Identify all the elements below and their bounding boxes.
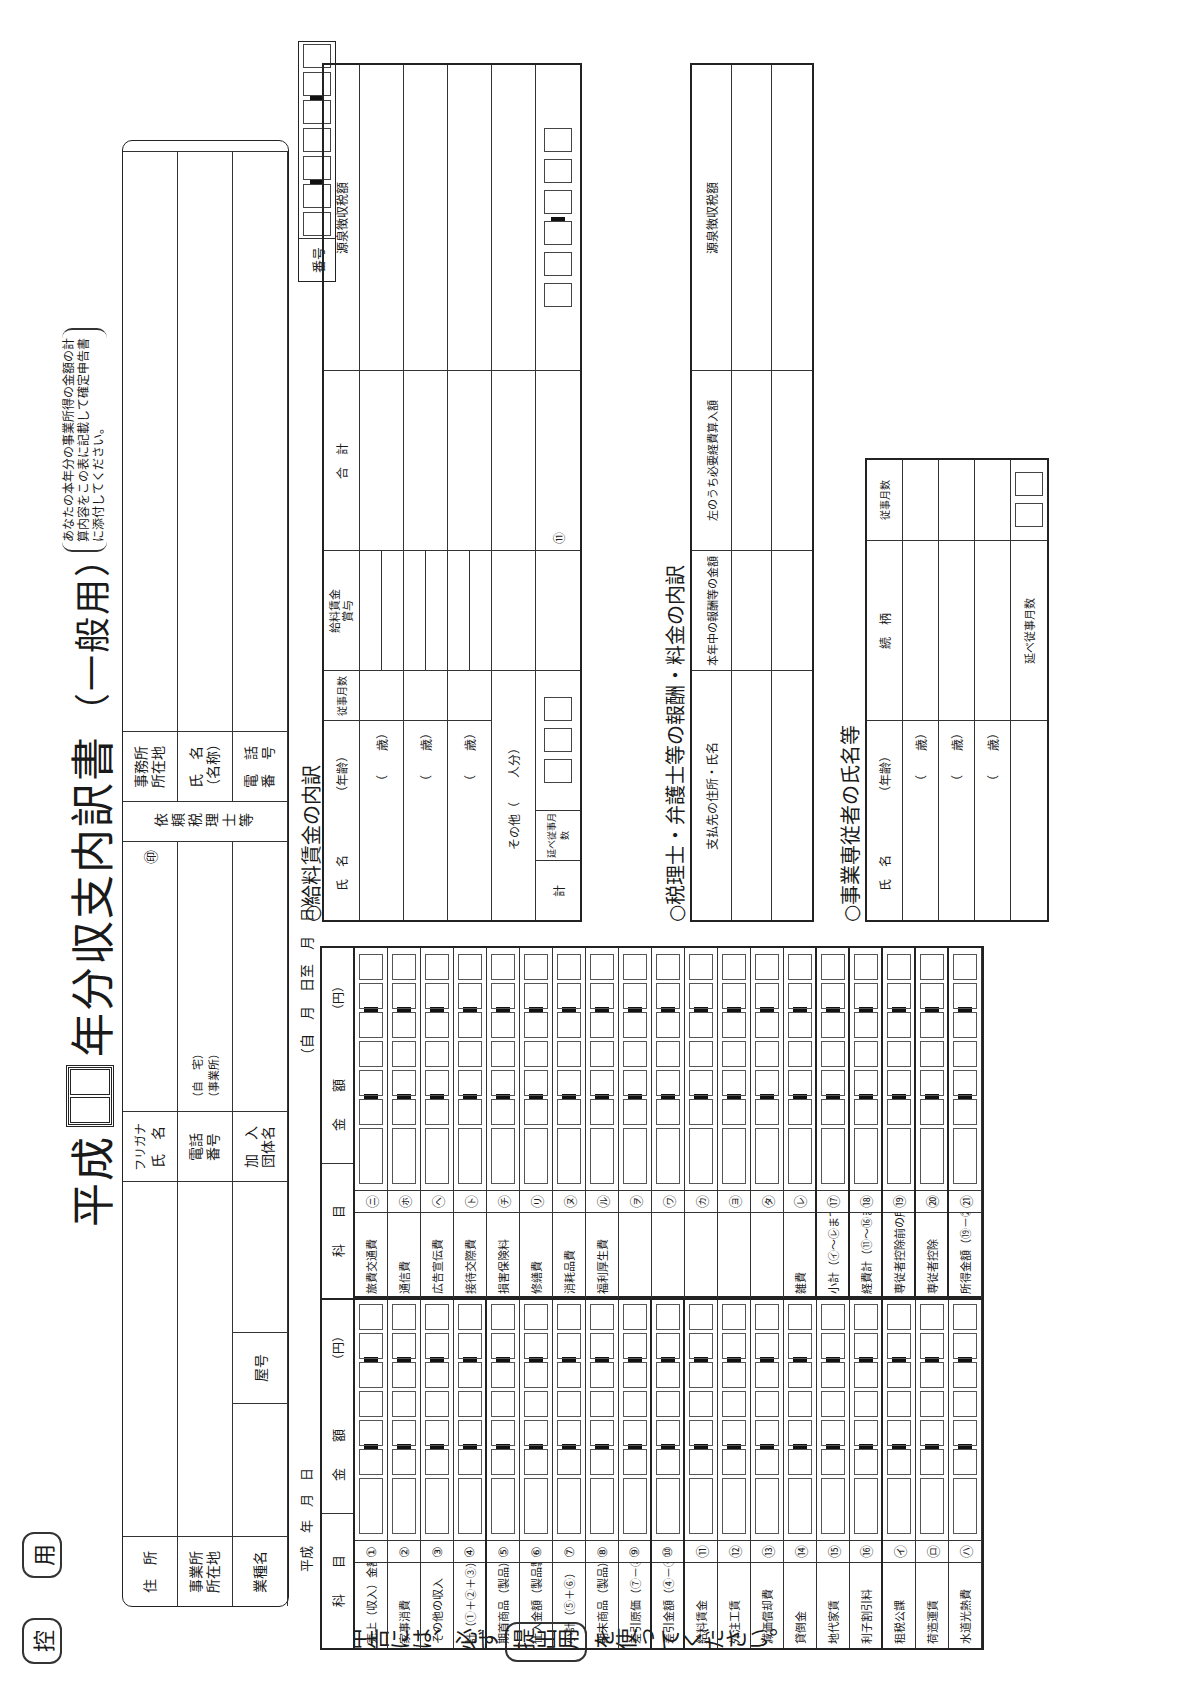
amount-input[interactable] xyxy=(388,948,420,1190)
income-table-header: 科 目 金 額（円） xyxy=(322,1298,355,1648)
family-name-field[interactable]: （ 歳） xyxy=(903,720,938,920)
withholding-field[interactable] xyxy=(448,65,491,370)
amount-input[interactable] xyxy=(784,948,815,1190)
amount-input[interactable] xyxy=(652,948,684,1190)
item-number: ㋠ xyxy=(487,1190,519,1212)
item-number: ⑤ xyxy=(487,1540,519,1562)
salary-other-wage[interactable] xyxy=(492,550,535,670)
employee-name-field[interactable]: （ 歳） xyxy=(448,720,491,920)
item-number: ㋾ xyxy=(619,1190,651,1212)
months-field[interactable] xyxy=(360,670,403,720)
trade-name-field[interactable] xyxy=(233,1182,287,1332)
withholding-field[interactable] xyxy=(404,65,447,370)
family-employee-table: 氏 名（年齢） 続 柄 従事月数 （ 歳）（ 歳）（ 歳） 延べ従事月数 xyxy=(865,458,1049,922)
amount-input[interactable] xyxy=(487,948,519,1190)
item-label: 差引金額（④－⑨） xyxy=(652,1562,683,1648)
amount-input[interactable] xyxy=(949,948,981,1190)
amount-input[interactable] xyxy=(817,1298,849,1540)
amount-input[interactable] xyxy=(487,1298,519,1540)
salary-total-tax[interactable] xyxy=(536,65,580,370)
amount-input[interactable] xyxy=(355,1298,387,1540)
relation-field[interactable] xyxy=(939,540,974,720)
phone-field[interactable]: （自 宅）（事業所） xyxy=(178,841,233,1111)
amount-input[interactable] xyxy=(586,948,618,1190)
amount-input[interactable] xyxy=(619,948,651,1190)
item-number: ㋦ xyxy=(553,1190,585,1212)
salary-total-field[interactable] xyxy=(360,370,403,550)
amount-input[interactable] xyxy=(421,948,453,1190)
fee-row[interactable] xyxy=(772,65,812,920)
address-field[interactable] xyxy=(123,1181,178,1536)
agent-name-field[interactable] xyxy=(178,151,233,731)
amount-input[interactable] xyxy=(751,1298,783,1540)
amount-input[interactable] xyxy=(685,1298,717,1540)
fee-row[interactable] xyxy=(732,65,772,920)
amount-input[interactable] xyxy=(949,1298,981,1540)
amount-input[interactable] xyxy=(718,1298,750,1540)
salary-total-amount[interactable]: ⑪ xyxy=(536,370,580,550)
family-months-total[interactable] xyxy=(1011,460,1047,540)
agent-office-field[interactable] xyxy=(123,151,178,731)
amount-input[interactable] xyxy=(718,948,750,1190)
agent-office-label: 事務所 所在地 xyxy=(123,731,178,801)
withholding-field[interactable] xyxy=(360,65,403,370)
salary-other-tax[interactable] xyxy=(492,65,535,370)
amount-input[interactable] xyxy=(388,1298,420,1540)
amount-input[interactable] xyxy=(652,1298,683,1540)
amount-input[interactable] xyxy=(520,1298,552,1540)
salary-total-field[interactable] xyxy=(404,370,447,550)
salary-total-wage[interactable] xyxy=(536,550,580,670)
amount-input[interactable] xyxy=(883,948,914,1190)
amount-input[interactable] xyxy=(883,1298,915,1540)
year-input-boxes[interactable] xyxy=(66,1065,114,1127)
amount-input[interactable] xyxy=(817,948,848,1190)
amount-input[interactable] xyxy=(619,1298,650,1540)
group-field[interactable] xyxy=(233,841,288,1111)
relation-field[interactable] xyxy=(903,540,938,720)
amount-input[interactable] xyxy=(355,948,387,1190)
employee-name-field[interactable]: （ 歳） xyxy=(404,720,447,920)
amount-input[interactable] xyxy=(784,1298,816,1540)
family-section-title: ○事業専従者の氏名等 xyxy=(835,725,864,922)
amount-input[interactable] xyxy=(454,1298,485,1540)
amount-input[interactable] xyxy=(454,948,486,1190)
table-row: 貸倒金⑭ xyxy=(784,1298,817,1648)
title-sub: （一般用） xyxy=(64,539,116,729)
amount-input[interactable] xyxy=(916,1298,948,1540)
amount-input[interactable] xyxy=(850,1298,881,1540)
amount-input[interactable] xyxy=(850,948,881,1190)
office-location-field[interactable] xyxy=(178,1181,233,1536)
business-type-field[interactable] xyxy=(233,1403,287,1536)
amount-input[interactable] xyxy=(751,948,783,1190)
instruction-note: あなたの本年分の事業所得の金額の計 算内容をこの表に記載して確定申告書 に添付し… xyxy=(62,328,107,552)
amount-input[interactable] xyxy=(586,1298,618,1540)
salary-other-total[interactable] xyxy=(492,370,535,550)
item-number: ⑩ xyxy=(652,1540,683,1562)
family-name-field[interactable]: （ 歳） xyxy=(939,720,974,920)
amount-input[interactable] xyxy=(553,1298,585,1540)
amount-input[interactable] xyxy=(685,948,717,1190)
relation-field[interactable] xyxy=(975,540,1010,720)
address-label: 住 所 xyxy=(123,1536,178,1606)
months-field[interactable] xyxy=(404,670,447,720)
table-row: 利子割引料⑯ xyxy=(850,1298,883,1648)
amount-input[interactable] xyxy=(520,948,552,1190)
item-label: 差引原価（⑦－⑧） xyxy=(619,1562,650,1648)
employee-name-field[interactable]: （ 歳） xyxy=(360,720,403,920)
salary-total-field[interactable] xyxy=(448,370,491,550)
family-months-field[interactable] xyxy=(939,460,974,540)
item-label: 家事消費 xyxy=(388,1562,420,1648)
name-field[interactable]: ㊞ xyxy=(123,841,178,1111)
taxpayer-info-block: 住 所 フリガナ氏 名 ㊞ 依頼税理士等 事務所 所在地 事業所 所在地 電話 … xyxy=(122,140,289,1607)
agent-phone-field[interactable] xyxy=(233,151,288,731)
months-field[interactable] xyxy=(448,670,491,720)
family-months-field[interactable] xyxy=(903,460,938,540)
item-label: 売上（収入）金額 xyxy=(355,1562,387,1648)
amount-input[interactable] xyxy=(553,948,585,1190)
family-row: （ 歳） xyxy=(975,460,1011,920)
control-copy-mark: 控 用 xyxy=(22,1532,62,1664)
family-name-field[interactable]: （ 歳） xyxy=(975,720,1010,920)
amount-input[interactable] xyxy=(916,948,947,1190)
family-months-field[interactable] xyxy=(975,460,1010,540)
amount-input[interactable] xyxy=(421,1298,453,1540)
